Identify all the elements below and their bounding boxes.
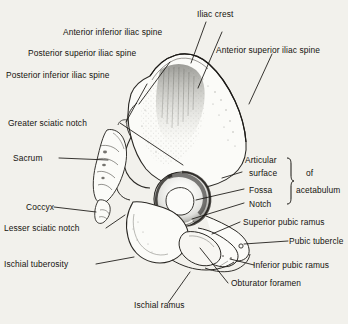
- label-posterior-inferior-iliac-spine: Posterior inferior iliac spine: [6, 70, 110, 80]
- coccyx-tip: [95, 200, 110, 224]
- label-anterior-superior-iliac-spine: Anterior superior iliac spine: [216, 45, 320, 55]
- label-articular-surface-line2: surface: [249, 168, 277, 178]
- label-inferior-pubic-ramus: Inferior pubic ramus: [253, 260, 329, 270]
- label-articular-surface-line1: Articular: [245, 155, 277, 165]
- label-of: of: [306, 168, 313, 178]
- leader-ischial-ramus: [168, 272, 190, 303]
- sacrum-column: [93, 129, 126, 203]
- leader-lesser-sciatic-notch: [106, 215, 125, 228]
- label-fossa: Fossa: [249, 185, 272, 195]
- label-ischial-ramus: Ischial ramus: [134, 300, 185, 310]
- label-coccyx: Coccyx: [26, 202, 54, 212]
- bone-illustration: [93, 54, 250, 272]
- leader-anterior-superior-iliac-spine: [249, 54, 272, 104]
- label-obturator-foramen: Obturator foramen: [231, 278, 301, 288]
- label-greater-sciatic-notch: Greater sciatic notch: [8, 118, 87, 128]
- label-lesser-sciatic-notch: Lesser sciatic notch: [4, 223, 80, 233]
- label-sacrum: Sacrum: [13, 153, 42, 163]
- label-acetabulum: acetabulum: [296, 185, 340, 195]
- label-pubic-tubercle: Pubic tubercle: [289, 236, 343, 246]
- label-posterior-superior-iliac-spine: Posterior superior iliac spine: [28, 48, 136, 58]
- label-superior-pubic-ramus: Superior pubic ramus: [243, 217, 325, 227]
- label-iliac-crest: Iliac crest: [197, 9, 233, 19]
- leader-pubic-tubercle: [244, 241, 288, 244]
- label-anterior-inferior-iliac-spine: Anterior inferior iliac spine: [63, 27, 162, 37]
- acetabulum-brace: [287, 158, 294, 204]
- leader-coccyx: [54, 207, 96, 212]
- label-ischial-tuberosity: Ischial tuberosity: [4, 259, 68, 269]
- leader-ischial-tuberosity: [96, 257, 134, 264]
- label-notch: Notch: [249, 199, 271, 209]
